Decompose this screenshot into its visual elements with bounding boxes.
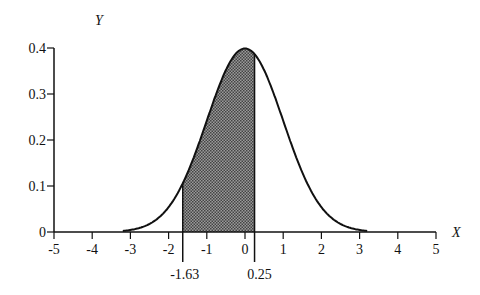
y-tick-label: 0 xyxy=(39,225,46,240)
x-tick-label: 2 xyxy=(318,242,325,257)
y-axis-label: Y xyxy=(95,13,105,28)
upper-bound-label: 0.25 xyxy=(247,267,272,282)
y-tick-label: 0.3 xyxy=(29,87,47,102)
y-tick-label: 0.2 xyxy=(29,133,47,148)
x-tick-label: 4 xyxy=(394,242,401,257)
x-tick-label: 0 xyxy=(242,242,249,257)
x-tick-label: -5 xyxy=(48,242,60,257)
x-tick-label: -1 xyxy=(201,242,213,257)
y-tick-label: 0.4 xyxy=(29,41,47,56)
x-tick-label: 5 xyxy=(433,242,440,257)
x-tick-label: -4 xyxy=(86,242,98,257)
shaded-area xyxy=(183,49,255,263)
x-tick-label: -2 xyxy=(163,242,175,257)
x-tick-label: 3 xyxy=(356,242,363,257)
x-tick-label: 1 xyxy=(280,242,287,257)
lower-bound-label: -1.63 xyxy=(170,267,199,282)
x-axis-label: X xyxy=(451,225,461,240)
y-tick-label: 0.1 xyxy=(29,179,47,194)
x-tick-label: -3 xyxy=(125,242,137,257)
normal-distribution-chart: -5-4-3-2-101234500.10.20.30.4-1.630.25 Y… xyxy=(0,0,480,295)
